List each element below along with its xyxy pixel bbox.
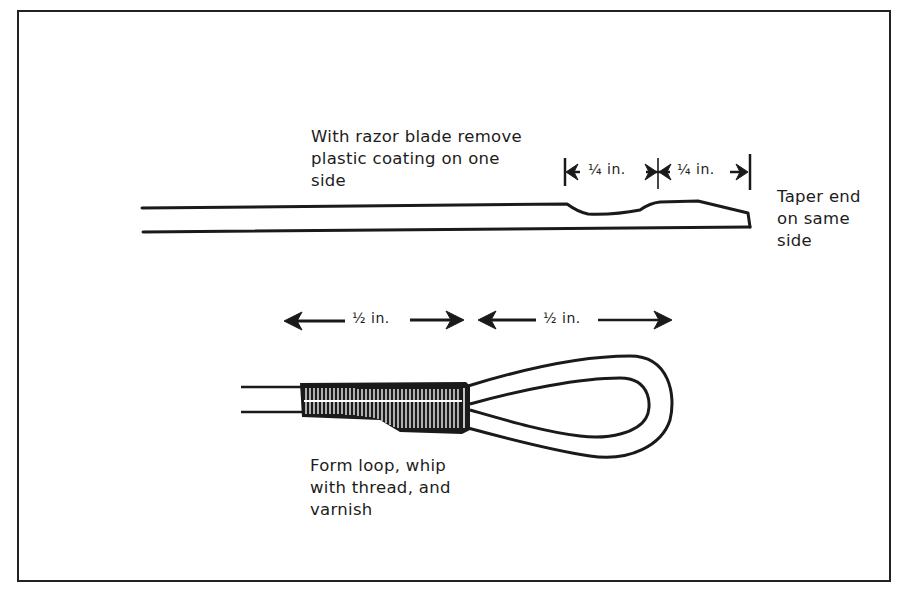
label-form-loop: Form loop, whip with thread, and varnish: [310, 455, 451, 521]
label-line: Taper end: [777, 186, 861, 208]
diagram-artwork: [0, 0, 907, 594]
whipped-loop: [241, 356, 672, 457]
dim-half-inch-2: ½ in.: [543, 310, 581, 326]
label-line: side: [311, 170, 522, 192]
label-line: With razor blade remove: [311, 126, 522, 148]
fly-line-tapered: [142, 201, 750, 232]
label-taper-end: Taper end on same side: [777, 186, 861, 252]
label-line: varnish: [310, 499, 451, 521]
label-line: on same: [777, 208, 861, 230]
label-line: Form loop, whip: [310, 455, 451, 477]
label-line: with thread, and: [310, 477, 451, 499]
label-line: side: [777, 230, 861, 252]
dim-quarter-inch-1: ¼ in.: [588, 161, 626, 177]
label-remove-coating: With razor blade remove plastic coating …: [311, 126, 522, 192]
half-inch-dimension: [284, 311, 672, 330]
label-line: plastic coating on one: [311, 148, 522, 170]
dim-half-inch-1: ½ in.: [352, 310, 390, 326]
dim-quarter-inch-2: ¼ in.: [677, 161, 715, 177]
